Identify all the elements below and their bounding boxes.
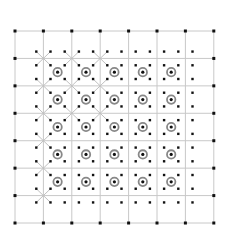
lattice-dot — [35, 201, 37, 203]
lattice-dot — [135, 119, 137, 121]
border-vertex-dot — [14, 194, 17, 197]
lattice-dot — [78, 146, 80, 148]
lattice-dot — [135, 201, 137, 203]
lattice-dot — [106, 174, 108, 176]
lattice-dot — [49, 188, 51, 190]
lattice-dot — [135, 50, 137, 52]
marker-center-dot — [113, 98, 116, 101]
lattice-dot — [177, 133, 179, 135]
border-vertex-dot — [184, 30, 187, 33]
marker-center-dot — [170, 98, 173, 101]
lattice-dot — [135, 188, 137, 190]
lattice-dot — [163, 174, 165, 176]
lattice-dot — [92, 188, 94, 190]
lattice-dot — [78, 78, 80, 80]
marker-center-dot — [141, 153, 144, 156]
border-vertex-dot — [42, 222, 45, 225]
lattice-diagram — [0, 0, 227, 249]
lattice-dot — [191, 119, 193, 121]
lattice-dot — [64, 92, 66, 94]
lattice-dot — [177, 160, 179, 162]
lattice-dot — [120, 133, 122, 135]
marker-center-dot — [170, 71, 173, 74]
marker-center-dot — [170, 153, 173, 156]
lattice-dot — [135, 133, 137, 135]
lattice-dot — [92, 50, 94, 52]
lattice-dot — [177, 92, 179, 94]
lattice-dot — [149, 133, 151, 135]
border-vertex-dot — [212, 57, 215, 60]
lattice-dot — [149, 64, 151, 66]
lattice-dot — [35, 92, 37, 94]
lattice-dot — [78, 105, 80, 107]
lattice-dot — [163, 92, 165, 94]
lattice-dot — [163, 201, 165, 203]
lattice-dot — [191, 188, 193, 190]
lattice-dot — [135, 92, 137, 94]
marker-center-dot — [56, 125, 59, 128]
lattice-dot — [120, 105, 122, 107]
lattice-dot — [35, 50, 37, 52]
lattice-dot — [177, 201, 179, 203]
border-vertex-dot — [184, 222, 187, 225]
border-vertex-dot — [212, 139, 215, 142]
lattice-dot — [35, 105, 37, 107]
lattice-dot — [191, 64, 193, 66]
lattice-dot — [106, 78, 108, 80]
lattice-dot — [35, 188, 37, 190]
lattice-dot — [163, 105, 165, 107]
lattice-dot — [191, 146, 193, 148]
lattice-dot — [106, 119, 108, 121]
lattice-dot — [78, 64, 80, 66]
lattice-dot — [120, 119, 122, 121]
border-vertex-dot — [14, 112, 17, 115]
lattice-dot — [35, 119, 37, 121]
lattice-dot — [191, 92, 193, 94]
border-vertex-dot — [212, 84, 215, 87]
border-vertex-dot — [70, 222, 73, 225]
lattice-dot — [106, 92, 108, 94]
lattice-dot — [191, 201, 193, 203]
lattice-dot — [149, 119, 151, 121]
lattice-dot — [149, 92, 151, 94]
marker-center-dot — [141, 125, 144, 128]
lattice-dot — [64, 201, 66, 203]
lattice-dot — [35, 174, 37, 176]
border-vertex-dot — [127, 222, 130, 225]
lattice-dot — [177, 146, 179, 148]
marker-center-dot — [56, 153, 59, 156]
lattice-dot — [163, 146, 165, 148]
lattice-dot — [163, 160, 165, 162]
lattice-dot — [64, 50, 66, 52]
border-vertex-dot — [156, 30, 159, 33]
border-vertex-dot — [99, 30, 102, 33]
lattice-dot — [106, 50, 108, 52]
marker-center-dot — [84, 153, 87, 156]
lattice-dot — [135, 64, 137, 66]
lattice-dot — [149, 160, 151, 162]
lattice-dot — [35, 64, 37, 66]
lattice-dot — [163, 133, 165, 135]
lattice-dot — [149, 174, 151, 176]
lattice-dot — [149, 105, 151, 107]
lattice-dot — [78, 133, 80, 135]
border-vertex-dot — [127, 30, 130, 33]
lattice-dot — [120, 50, 122, 52]
lattice-dot — [49, 201, 51, 203]
lattice-dot — [191, 105, 193, 107]
lattice-dot — [177, 105, 179, 107]
lattice-dot — [92, 133, 94, 135]
lattice-dot — [120, 92, 122, 94]
lattice-dot — [78, 201, 80, 203]
lattice-dot — [49, 146, 51, 148]
marker-center-dot — [113, 125, 116, 128]
lattice-dot — [49, 105, 51, 107]
border-vertex-dot — [42, 30, 45, 33]
lattice-dot — [149, 50, 151, 52]
lattice-dot — [49, 64, 51, 66]
marker-center-dot — [56, 180, 59, 183]
lattice-dot — [64, 78, 66, 80]
marker-center-dot — [113, 180, 116, 183]
lattice-dot — [64, 174, 66, 176]
lattice-dot — [177, 78, 179, 80]
